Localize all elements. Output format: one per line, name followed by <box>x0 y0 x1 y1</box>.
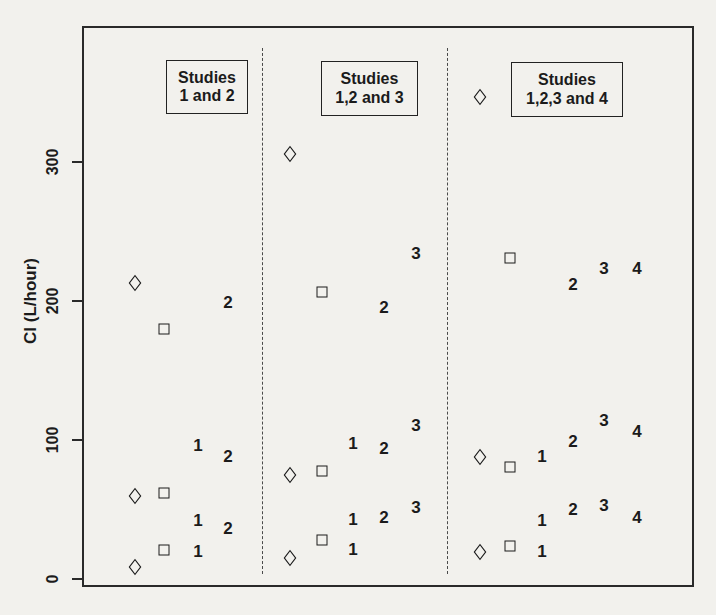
data-point-study-3: 3 <box>411 418 420 435</box>
legend-line-2: 1,2,3 and 4 <box>512 90 622 108</box>
data-point-study-2: 2 <box>223 520 232 537</box>
data-point-study-1: 1 <box>348 511 357 528</box>
y-tick-label: 100 <box>44 427 62 454</box>
data-point-square <box>317 286 328 297</box>
data-point-study-1: 1 <box>193 512 202 529</box>
data-point-study-2: 2 <box>568 276 577 293</box>
clearance-scatter-chart: Cl (L/hour) Studies 1 and 2 Studies 1,2 … <box>0 0 716 615</box>
data-point-study-2: 2 <box>379 299 388 316</box>
data-point-study-1: 1 <box>537 543 546 560</box>
y-tick-mark <box>72 439 82 441</box>
data-point-study-2: 2 <box>379 509 388 526</box>
data-point-study-4: 4 <box>632 423 641 440</box>
data-point-study-3: 3 <box>599 260 608 277</box>
data-point-square <box>317 465 328 476</box>
data-point-study-2: 2 <box>223 294 232 311</box>
data-point-study-3: 3 <box>599 412 608 429</box>
data-point-study-1: 1 <box>537 512 546 529</box>
data-point-square <box>159 545 170 556</box>
data-point-square <box>317 535 328 546</box>
data-point-study-3: 3 <box>411 500 420 517</box>
data-point-study-1: 1 <box>348 436 357 453</box>
data-point-square <box>505 461 516 472</box>
legend-line-1: Studies <box>322 70 417 88</box>
legend-studies-1-2-3: Studies 1,2 and 3 <box>321 61 418 116</box>
data-point-study-3: 3 <box>411 245 420 262</box>
data-point-square <box>505 253 516 264</box>
data-point-study-4: 4 <box>632 509 641 526</box>
legend-line-2: 1,2 and 3 <box>322 89 417 107</box>
legend-line-1: Studies <box>167 69 247 87</box>
y-tick-label: 200 <box>44 288 62 315</box>
y-tick-mark <box>72 578 82 580</box>
y-tick-label: 0 <box>44 575 62 584</box>
data-point-study-4: 4 <box>632 260 641 277</box>
panel-divider-2 <box>447 48 448 574</box>
y-axis-title: Cl (L/hour) <box>21 258 41 344</box>
y-tick-mark <box>72 161 82 163</box>
data-point-study-2: 2 <box>568 501 577 518</box>
data-point-square <box>159 324 170 335</box>
legend-line-2: 1 and 2 <box>167 87 247 105</box>
legend-line-1: Studies <box>512 71 622 89</box>
data-point-study-2: 2 <box>568 433 577 450</box>
data-point-study-1: 1 <box>348 541 357 558</box>
data-point-study-1: 1 <box>193 543 202 560</box>
data-point-study-1: 1 <box>537 448 546 465</box>
data-point-study-1: 1 <box>193 437 202 454</box>
data-point-study-2: 2 <box>223 448 232 465</box>
y-tick-label: 300 <box>44 149 62 176</box>
data-point-square <box>505 540 516 551</box>
legend-studies-1-2: Studies 1 and 2 <box>166 60 248 114</box>
legend-studies-1-2-3-4: Studies 1,2,3 and 4 <box>511 62 623 117</box>
data-point-study-3: 3 <box>599 497 608 514</box>
data-point-square <box>159 488 170 499</box>
panel-divider-1 <box>262 48 263 574</box>
data-point-study-2: 2 <box>379 440 388 457</box>
y-tick-mark <box>72 300 82 302</box>
